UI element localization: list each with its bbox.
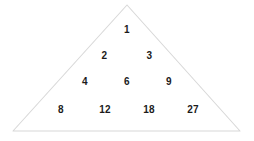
triangle-number: 1 [107, 24, 147, 36]
triangle-number: 27 [171, 104, 215, 116]
triangle-number: 3 [127, 50, 172, 62]
triangle-number: 8 [39, 104, 83, 116]
triangle-number: 4 [64, 76, 106, 88]
triangle-number: 18 [127, 104, 171, 116]
triangle-number: 2 [82, 50, 127, 62]
triangle-row-3: 4 6 9 [0, 76, 254, 88]
triangle-number: 6 [106, 76, 148, 88]
triangle-row-1: 1 [0, 24, 254, 36]
triangle-number-layer: 1 2 3 4 6 9 8 12 18 27 [0, 0, 254, 141]
triangle-row-4: 8 12 18 27 [0, 104, 254, 116]
triangle-row-2: 2 3 [0, 50, 254, 62]
number-triangle-figure: 1 2 3 4 6 9 8 12 18 27 [0, 0, 254, 141]
triangle-number: 12 [83, 104, 127, 116]
triangle-number: 9 [148, 76, 190, 88]
